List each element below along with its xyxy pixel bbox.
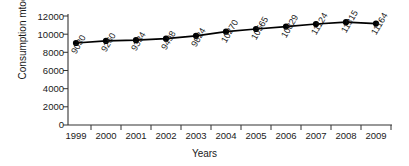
x-tick-label: 2006 (269, 131, 303, 141)
x-tick-label: 2007 (299, 131, 333, 141)
x-tick-label: 2009 (359, 131, 393, 141)
x-tick-label: 2000 (89, 131, 123, 141)
x-tick-label: 1999 (59, 131, 93, 141)
x-tick-label: 2005 (239, 131, 273, 141)
x-tick-label: 2002 (149, 131, 183, 141)
x-tick-label: 2004 (209, 131, 243, 141)
x-axis-title: Years (0, 148, 409, 159)
y-axis-ticks (63, 16, 68, 125)
x-tick-label: 2008 (329, 131, 363, 141)
x-tick-label: 2001 (119, 131, 153, 141)
line-chart: Consumption mtoe 12000 10000 8000 6000 4… (0, 0, 409, 166)
x-tick-label: 2003 (179, 131, 213, 141)
